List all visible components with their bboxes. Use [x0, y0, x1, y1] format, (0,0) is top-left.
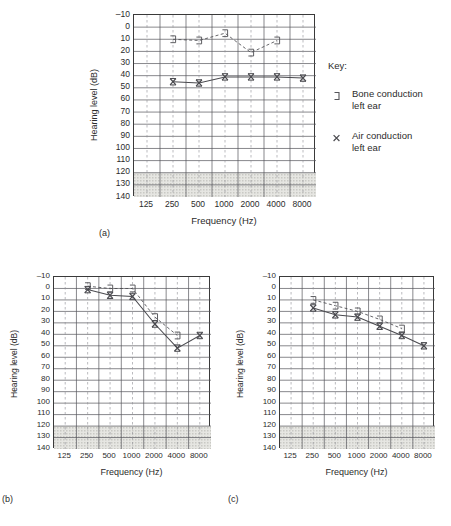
- y-axis-tick: 20: [251, 306, 276, 314]
- y-axis-tick: 90: [105, 131, 130, 140]
- air-conduction-cross-icon: [330, 131, 344, 145]
- y-axis-tick: 30: [251, 317, 276, 325]
- y-axis-tick: 40: [25, 329, 50, 337]
- y-axis-tick: 60: [25, 352, 50, 360]
- panel-letter: (a): [99, 228, 110, 238]
- y-axis-tick: 80: [251, 375, 276, 383]
- y-axis-tick: 0: [25, 283, 50, 291]
- air-conduction-marker: [152, 321, 158, 327]
- y-axis-tick: 140: [25, 444, 50, 452]
- y-axis-tick: 20: [105, 46, 130, 55]
- y-axis-label: Hearing level (dB): [9, 330, 19, 398]
- legend-label-air-line2: left ear: [352, 142, 381, 153]
- bone-conduction-bracket-icon: [330, 89, 344, 103]
- y-axis-tick: 30: [25, 317, 50, 325]
- legend-label-air-line1: Air conduction: [352, 130, 412, 141]
- x-axis-tick: 8000: [183, 452, 215, 460]
- y-axis-tick: 140: [251, 444, 276, 452]
- y-axis-tick: 130: [25, 432, 50, 440]
- y-axis-tick: –10: [251, 272, 276, 280]
- y-axis-tick: 10: [251, 294, 276, 302]
- y-axis-tick: –10: [105, 10, 130, 19]
- plot-area: [279, 276, 434, 448]
- y-axis-tick: 60: [251, 352, 276, 360]
- y-axis-tick: 60: [105, 94, 130, 103]
- audiogram-panel-c: –100102030405060708090100110120130140125…: [226, 262, 451, 526]
- y-axis-tick: 90: [25, 386, 50, 394]
- x-axis-label: Frequency (Hz): [53, 467, 210, 477]
- y-axis-tick: 100: [251, 398, 276, 406]
- legend-label-bone-line2: left ear: [352, 100, 381, 111]
- y-axis-tick: 90: [251, 386, 276, 394]
- y-axis-tick: 0: [251, 283, 276, 291]
- y-axis-tick: 40: [251, 329, 276, 337]
- y-axis-tick: 30: [105, 58, 130, 67]
- x-axis-label: Frequency (Hz): [133, 215, 315, 226]
- x-axis-tick: 8000: [407, 452, 439, 460]
- y-axis-tick: 100: [105, 143, 130, 152]
- y-axis-tick: –10: [25, 272, 50, 280]
- y-axis-tick: 70: [251, 363, 276, 371]
- panel-letter: (b): [2, 494, 13, 504]
- y-axis-tick: 40: [105, 70, 130, 79]
- y-axis-tick: 120: [251, 421, 276, 429]
- y-axis-tick: 10: [105, 34, 130, 43]
- y-axis-tick: 50: [105, 82, 130, 91]
- y-axis-tick: 10: [25, 294, 50, 302]
- y-axis-label: Hearing level (dB): [235, 330, 245, 398]
- y-axis-tick: 140: [105, 192, 130, 201]
- y-axis-tick: 0: [105, 22, 130, 31]
- air-conduction-marker: [310, 305, 316, 311]
- panel-letter: (c): [228, 494, 239, 504]
- legend: Key: Bone conduction left ear Air conduc…: [326, 60, 451, 170]
- y-axis-tick: 120: [105, 167, 130, 176]
- y-axis-tick: 50: [25, 340, 50, 348]
- audiogram-panel-a: –100102030405060708090100110120130140125…: [0, 0, 330, 260]
- y-axis-tick: 20: [25, 306, 50, 314]
- y-axis-tick: 130: [105, 179, 130, 188]
- y-axis-tick: 110: [251, 409, 276, 417]
- y-axis-tick: 80: [25, 375, 50, 383]
- y-axis-tick: 130: [251, 432, 276, 440]
- y-axis-tick: 80: [105, 119, 130, 128]
- y-axis-tick: 120: [25, 421, 50, 429]
- y-axis-tick: 100: [25, 398, 50, 406]
- legend-title: Key:: [328, 60, 347, 71]
- x-axis-label: Frequency (Hz): [279, 467, 434, 477]
- y-axis-tick: 50: [251, 340, 276, 348]
- audiogram-panel-b: –100102030405060708090100110120130140125…: [0, 262, 226, 526]
- y-axis-label: Hearing level (dB): [89, 69, 99, 141]
- y-axis-tick: 70: [25, 363, 50, 371]
- x-axis-tick: 8000: [286, 200, 318, 209]
- legend-label-bone-line1: Bone conduction: [352, 88, 423, 99]
- plot-area: [53, 276, 210, 448]
- plot-area: [133, 14, 315, 196]
- y-axis-tick: 70: [105, 107, 130, 116]
- y-axis-tick: 110: [105, 155, 130, 164]
- y-axis-tick: 110: [25, 409, 50, 417]
